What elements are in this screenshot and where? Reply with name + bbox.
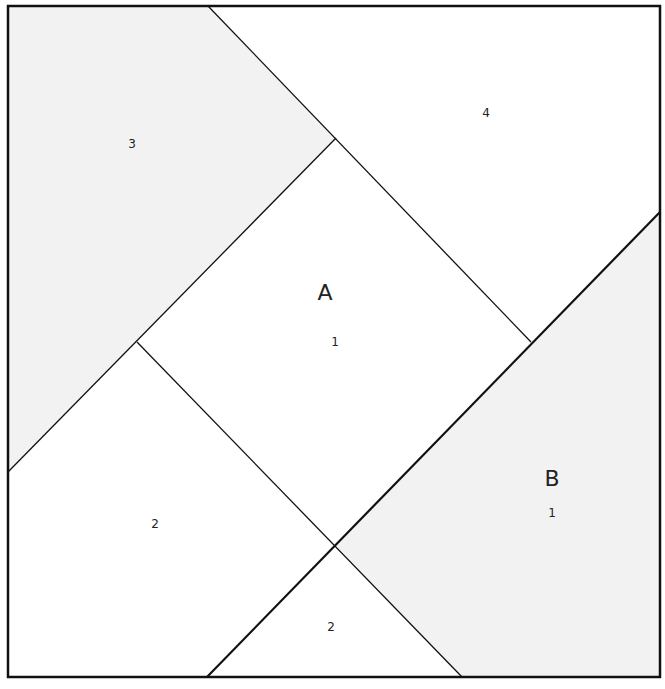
quilt-block-diagram: 122341AB [0,0,665,689]
section-label-a: A [317,280,332,305]
piece-number-a4: 4 [482,106,490,120]
piece-number-a3: 3 [128,137,136,151]
section-label-b: B [544,466,559,491]
piece-number-a1: 1 [331,335,339,349]
piece-number-b1: 1 [548,506,556,520]
piece-number-a2-bottom: 2 [327,620,335,634]
piece-number-a2-left: 2 [151,517,159,531]
